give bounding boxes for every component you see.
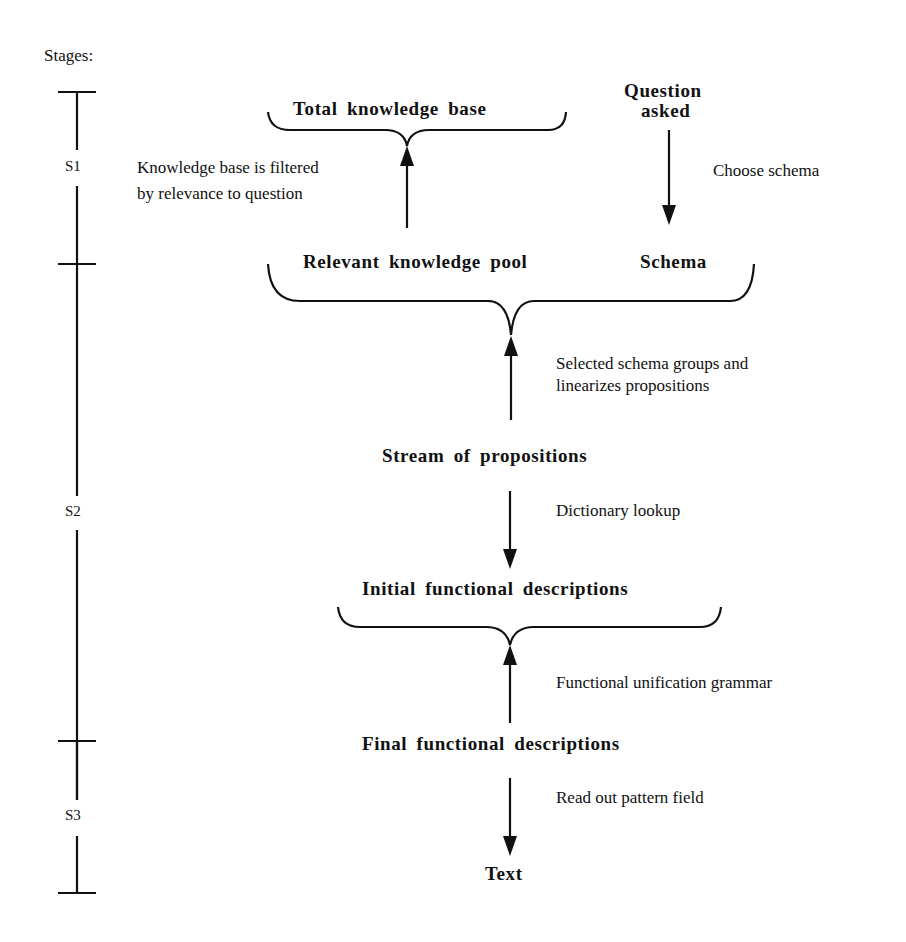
stage-label-s1: S1 xyxy=(65,158,81,175)
arrowhead-up-schema-groups xyxy=(504,336,518,356)
node-schema: Schema xyxy=(640,251,707,273)
node-text: Text xyxy=(485,863,523,885)
label-filter-line2: by relevance to question xyxy=(137,184,303,204)
label-read-out: Read out pattern field xyxy=(556,788,704,808)
arrowhead-down-schema xyxy=(662,205,676,225)
node-relevant-knowledge-pool: Relevant knowledge pool xyxy=(303,251,527,273)
arrowhead-down-dictionary xyxy=(503,549,517,569)
brace-initial-descriptions xyxy=(338,607,721,645)
node-initial-functional-descriptions: Initial functional descriptions xyxy=(362,578,628,600)
arrowhead-down-readout xyxy=(503,836,517,856)
node-question-asked-line2: asked xyxy=(641,100,690,122)
node-total-knowledge-base: Total knowledge base xyxy=(293,98,487,120)
node-question-asked-line1: Question xyxy=(624,80,702,102)
arrowhead-up-filter xyxy=(400,146,414,166)
stage-timeline xyxy=(58,92,96,893)
arrowhead-up-unification xyxy=(503,645,517,665)
stage-label-s2: S2 xyxy=(65,503,81,520)
diagram-graphics xyxy=(0,0,906,942)
label-schema-groups-line1: Selected schema groups and xyxy=(556,354,748,374)
brace-relevant-schema xyxy=(268,264,754,335)
label-schema-groups-line2: linearizes propositions xyxy=(556,376,709,396)
label-unification-grammar: Functional unification grammar xyxy=(556,673,772,693)
label-choose-schema: Choose schema xyxy=(713,161,819,181)
node-stream-of-propositions: Stream of propositions xyxy=(382,445,587,467)
stages-heading: Stages: xyxy=(44,46,93,66)
label-dictionary-lookup: Dictionary lookup xyxy=(556,501,680,521)
stage-label-s3: S3 xyxy=(65,807,81,824)
label-filter-line1: Knowledge base is filtered xyxy=(137,158,319,178)
node-final-functional-descriptions: Final functional descriptions xyxy=(362,733,620,755)
